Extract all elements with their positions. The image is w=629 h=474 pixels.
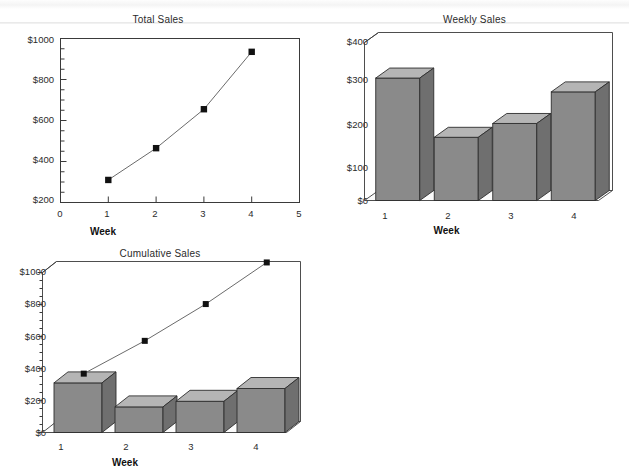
- cumulative-line: [84, 262, 267, 373]
- data-marker: [264, 259, 270, 265]
- wall-edge: [43, 262, 57, 273]
- plot-area-total-sales: [0, 10, 316, 240]
- data-marker: [203, 301, 209, 307]
- chart-total-sales: Total Sales $1000 $800 $600 $400 $200 0 …: [0, 10, 316, 240]
- bar-front-face: [493, 123, 537, 200]
- data-marker: [105, 177, 111, 183]
- bar-4: [551, 82, 609, 201]
- axis-ticks: [61, 39, 300, 203]
- chart-cumulative-sales: Cumulative Sales $1000 $800 $600 $400 $2…: [0, 245, 320, 474]
- bar-front-face: [237, 389, 285, 433]
- wall-edge: [365, 33, 379, 43]
- bar-front-face: [176, 401, 224, 432]
- bar-side-face: [420, 68, 434, 200]
- plot-area-weekly-sales: [320, 10, 629, 240]
- data-markers: [105, 49, 255, 184]
- bar-side-face: [595, 82, 609, 201]
- bar-front-face: [115, 407, 163, 433]
- bar-side-face: [102, 372, 116, 433]
- chart-weekly-sales: Weekly Sales $400 $300 $200 $100 $0 1 2 …: [320, 10, 629, 240]
- bar-front-face: [551, 92, 595, 201]
- bar-2: [115, 396, 177, 433]
- bar-1: [376, 68, 434, 200]
- plot-area-cumulative-sales: [0, 245, 320, 474]
- bar-front-face: [54, 383, 102, 433]
- bar-4: [237, 378, 299, 433]
- scan-edge-band: [0, 0, 629, 9]
- bar-1: [54, 372, 116, 433]
- data-line: [108, 52, 251, 180]
- data-marker: [81, 371, 87, 377]
- data-marker: [201, 106, 207, 112]
- bar-side-face: [537, 113, 551, 200]
- data-marker: [153, 145, 159, 151]
- data-marker: [249, 49, 255, 55]
- data-marker: [142, 338, 148, 344]
- y-axis-ticks: [38, 273, 43, 433]
- bar-2: [434, 127, 492, 200]
- bar-front-face: [376, 78, 420, 200]
- bar-front-face: [434, 137, 478, 200]
- bar-3: [493, 113, 551, 200]
- bar-side-face: [478, 127, 492, 200]
- bar-3: [176, 390, 238, 432]
